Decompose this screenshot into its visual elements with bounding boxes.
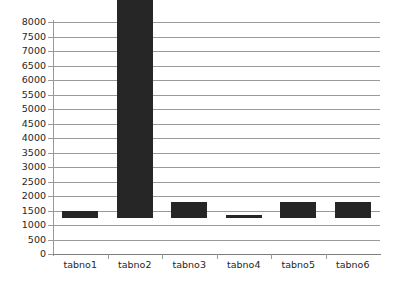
y-axis-tick-label: 3500 [2, 148, 46, 158]
y-axis-tick [48, 196, 53, 197]
y-axis-tick-label: 5000 [2, 104, 46, 114]
y-axis-tick-label: 5500 [2, 90, 46, 100]
y-axis-tick [48, 22, 53, 23]
y-axis-tick-label: 4500 [2, 119, 46, 129]
bar [117, 0, 153, 218]
y-axis-tick [48, 254, 53, 255]
y-axis-tick [48, 240, 53, 241]
bar [62, 211, 98, 218]
x-axis-tick-label: tabno5 [271, 260, 326, 270]
y-axis-tick-label: 4000 [2, 133, 46, 143]
y-axis-tick-label: 8000 [2, 17, 46, 27]
y-axis-tick-label: 6000 [2, 75, 46, 85]
y-axis-tick-label: 2000 [2, 191, 46, 201]
y-axis-tick [48, 167, 53, 168]
y-axis-tick [48, 182, 53, 183]
x-axis-tick-label: tabno3 [162, 260, 217, 270]
y-axis-tick [48, 80, 53, 81]
y-axis-tick [48, 37, 53, 38]
bar [335, 202, 371, 218]
bars-layer [53, 0, 381, 255]
x-axis-tick-label: tabno4 [217, 260, 272, 270]
y-axis-tick-label: 6500 [2, 61, 46, 71]
bar [171, 202, 207, 218]
x-axis-tick [326, 254, 327, 259]
x-axis-tick [108, 254, 109, 259]
y-axis-tick [48, 66, 53, 67]
y-axis-tick-label: 0 [2, 249, 46, 259]
y-axis-tick [48, 153, 53, 154]
y-axis-labels: 0500100015002000250030003500400045005000… [0, 0, 46, 291]
y-axis-tick-label: 1500 [2, 206, 46, 216]
y-axis-tick [48, 225, 53, 226]
y-axis-tick [48, 138, 53, 139]
y-axis-tick-label: 2500 [2, 177, 46, 187]
x-axis-tick [217, 254, 218, 259]
y-axis-tick [48, 51, 53, 52]
y-axis-tick-label: 500 [2, 235, 46, 245]
y-axis-tick-label: 7000 [2, 46, 46, 56]
y-axis-tick-label: 7500 [2, 32, 46, 42]
y-axis-tick-label: 1000 [2, 220, 46, 230]
x-axis-tick [271, 254, 272, 259]
bar [226, 215, 262, 218]
y-axis-tick-label: 3000 [2, 162, 46, 172]
x-axis-tick [162, 254, 163, 259]
x-axis-tick-label: tabno6 [326, 260, 381, 270]
bar-chart: 0500100015002000250030003500400045005000… [0, 0, 401, 291]
y-axis-tick [48, 211, 53, 212]
y-axis-tick [48, 109, 53, 110]
y-axis-tick [48, 95, 53, 96]
x-axis-tick-label: tabno1 [53, 260, 108, 270]
y-axis-tick [48, 124, 53, 125]
x-axis-labels: tabno1tabno2tabno3tabno4tabno5tabno6 [53, 260, 381, 276]
bar [280, 202, 316, 218]
x-axis-tick-label: tabno2 [108, 260, 163, 270]
